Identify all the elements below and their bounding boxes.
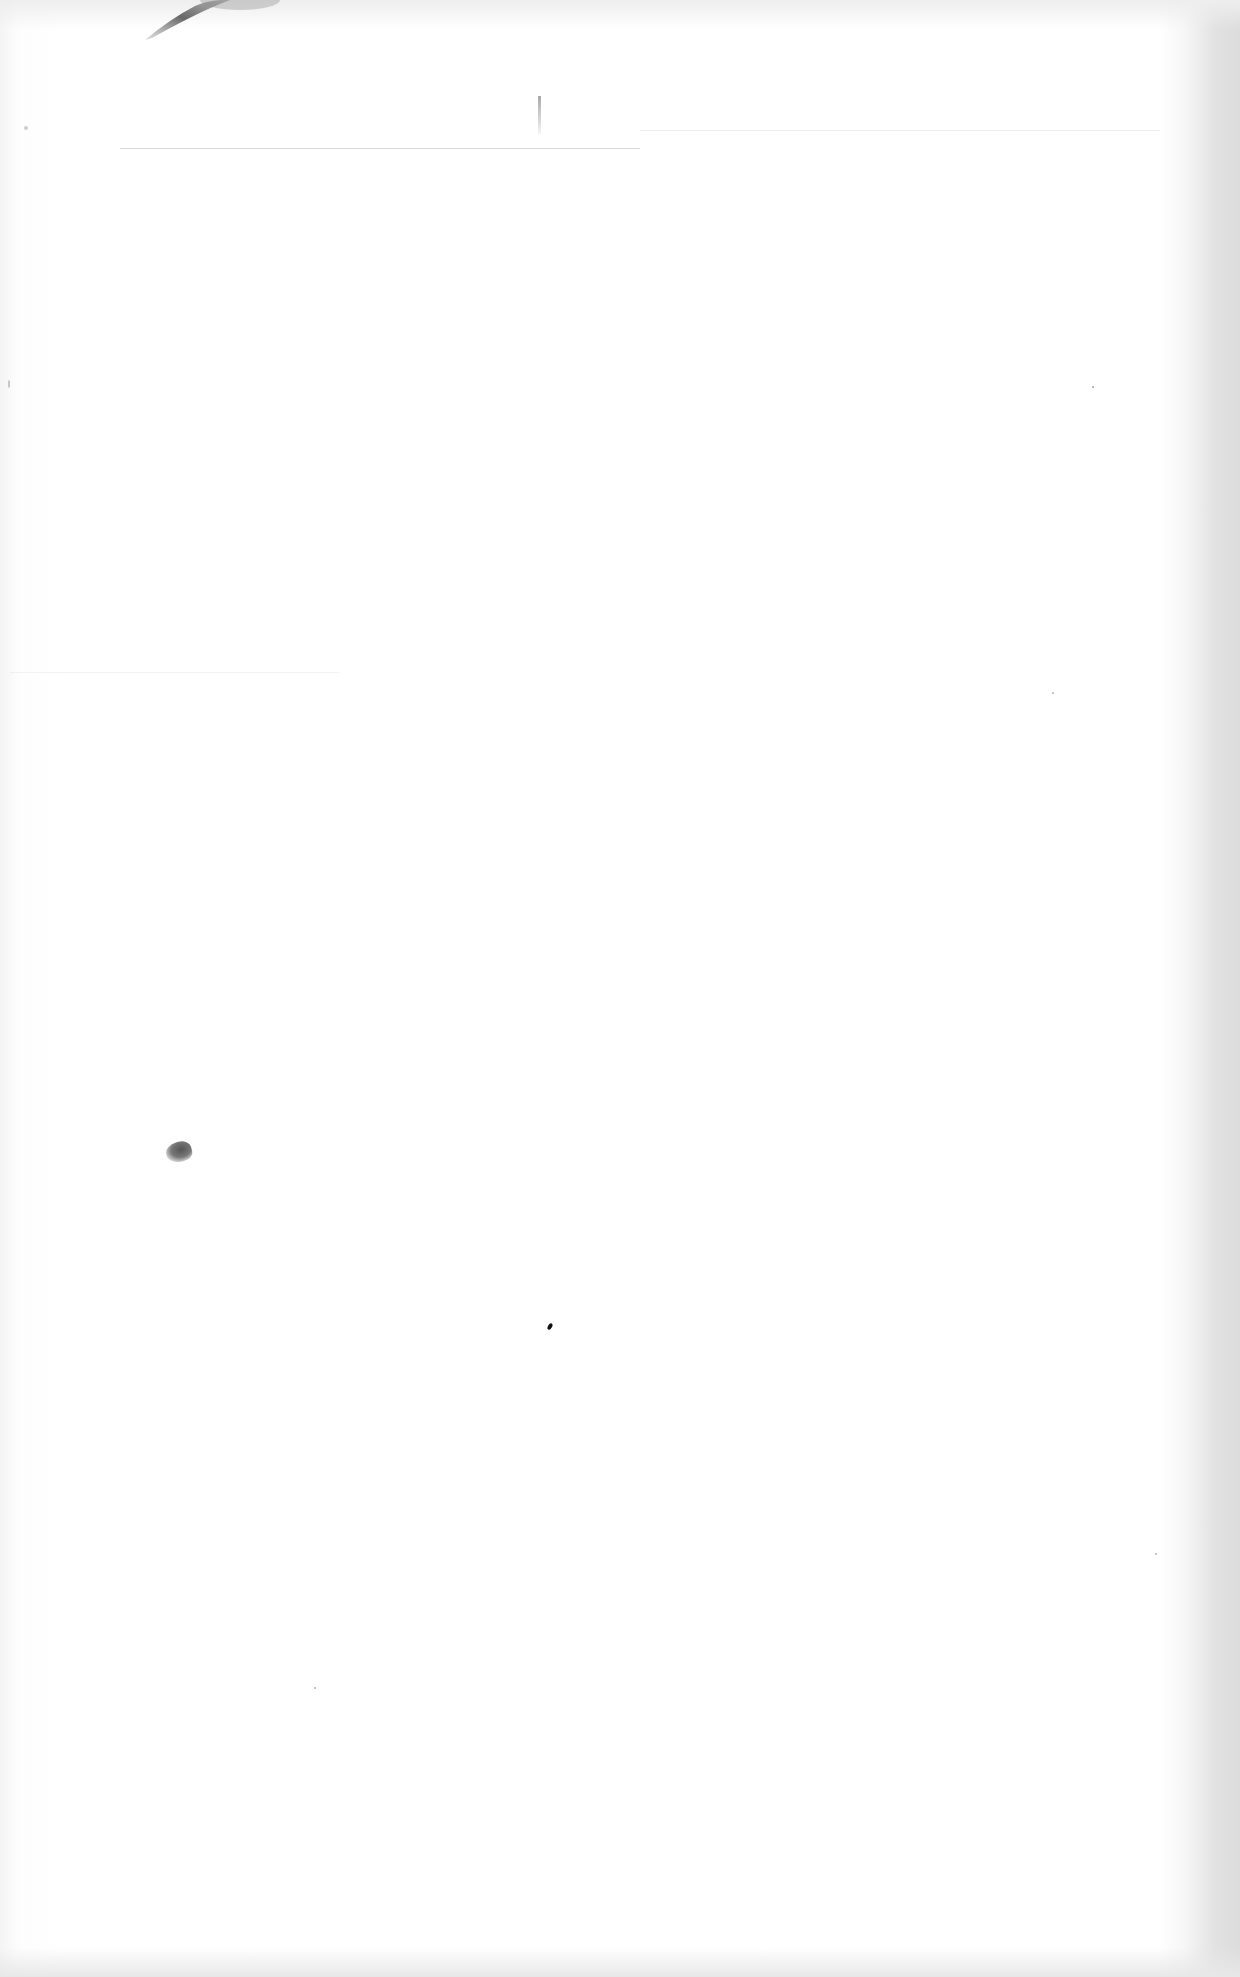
- faint-rule-line: [120, 148, 640, 149]
- bottom-edge-shadow: [0, 1947, 1240, 1977]
- fold-mark: [538, 96, 541, 134]
- dust-speck: [1155, 1553, 1157, 1555]
- faint-rule-line: [10, 672, 340, 673]
- faint-rule-line: [640, 130, 1160, 131]
- dust-speck: [1092, 386, 1094, 388]
- dust-speck: [314, 1687, 316, 1689]
- ink-blot: [164, 1139, 194, 1165]
- ink-smudge-icon: [140, 0, 290, 44]
- dust-speck: [8, 380, 10, 388]
- ink-dot: [547, 1322, 554, 1330]
- blank-page: [0, 0, 1240, 1977]
- dust-speck: [1052, 692, 1054, 694]
- dust-speck: [24, 126, 28, 130]
